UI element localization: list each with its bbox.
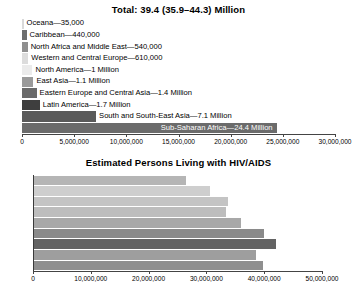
bottom-chart-x-tick-label: 20,000,000 — [132, 275, 165, 282]
top-chart-bar-row: Western and Central Europe—610,000 — [22, 53, 335, 65]
top-chart-bar — [22, 88, 37, 98]
bottom-chart-bar-row: 1998 — [33, 196, 322, 207]
top-chart-x-tick-label: 5,000,000 — [59, 138, 88, 145]
bottom-chart-bar-row: 1997 — [33, 186, 322, 197]
bottom-chart-bar — [33, 218, 241, 228]
bottom-chart-x-tick-label: 40,000,000 — [248, 275, 281, 282]
top-chart-x-tick-label: 25,000,000 — [266, 138, 299, 145]
bottom-chart-x-tick — [264, 271, 265, 274]
top-chart-bar-label: South and South-East Asia—7.1 Million — [99, 111, 232, 122]
top-chart-bar — [22, 65, 32, 75]
bottom-chart-bar — [33, 207, 226, 217]
bottom-chart-bar-row: 1996 — [33, 175, 322, 186]
top-chart-x-tick-label: 0 — [20, 138, 24, 145]
bottom-chart-bar — [33, 176, 186, 186]
top-chart-bar-row: Caribbean—440,000 — [22, 30, 335, 42]
bottom-chart-x-tick-label: 30,000,000 — [190, 275, 223, 282]
top-chart-x-tick — [126, 134, 127, 137]
top-chart-bar-label: North Africa and Middle East—540,000 — [31, 42, 162, 53]
top-chart-bar-row: East Asia—1.1 Million — [22, 76, 335, 88]
top-chart-x-tick-label: 30,000,000 — [318, 138, 351, 145]
top-chart-x-tick — [22, 134, 23, 137]
top-chart-bar-row: Sub-Saharan Africa—24.4 Million — [22, 122, 335, 134]
top-chart-bar — [22, 77, 33, 87]
bottom-chart-bar-row: 1999 — [33, 207, 322, 218]
top-chart-bar — [22, 111, 96, 121]
bottom-chart-bar-row: 2003 — [33, 250, 322, 261]
top-chart-bar-row: Oceana—35,000 — [22, 18, 335, 30]
bottom-chart-bar — [33, 239, 276, 249]
top-chart-x-tick — [283, 134, 284, 137]
bottom-chart-x-tick — [149, 271, 150, 274]
top-chart-bar-label: Eastern Europe and Central Asia—1.4 Mill… — [40, 88, 192, 99]
top-chart-bar — [22, 19, 24, 29]
bottom-chart-bar-row: 2001 — [33, 228, 322, 239]
top-chart-title: Total: 39.4 (35.9–44.3) Million — [0, 4, 357, 15]
hiv-by-year-bar-chart: Estimated Persons Living with HIV/AIDS 1… — [0, 155, 357, 287]
bottom-chart-bar — [33, 197, 228, 207]
bottom-chart-x-tick-label: 10,000,000 — [74, 275, 107, 282]
bottom-chart-x-tick — [91, 271, 92, 274]
top-chart-x-tick-label: 10,000,000 — [110, 138, 143, 145]
top-chart-x-tick — [179, 134, 180, 137]
top-chart-bar-label: Caribbean—440,000 — [30, 30, 100, 41]
bottom-chart-bar — [33, 261, 263, 271]
bottom-chart-x-tick-label: 0 — [31, 275, 35, 282]
bottom-chart-bar — [33, 250, 256, 260]
top-chart-bar-label: East Asia—1.1 Million — [36, 76, 109, 87]
bottom-chart-bar-row: 2000 — [33, 218, 322, 229]
top-chart-x-tick — [74, 134, 75, 137]
bottom-chart-bar-row: 2002 — [33, 239, 322, 250]
top-chart-bar-row: North Africa and Middle East—540,000 — [22, 41, 335, 53]
top-chart-bar — [22, 30, 27, 40]
top-chart-bar-label: Sub-Saharan Africa—24.4 Million — [161, 123, 273, 134]
bottom-chart-x-tick-label: 50,000,000 — [305, 275, 338, 282]
top-chart-x-tick — [231, 134, 232, 137]
top-chart-bar-label: Western and Central Europe—610,000 — [31, 53, 162, 64]
hiv-regions-bar-chart: Total: 39.4 (35.9–44.3) Million Oceana—3… — [0, 0, 357, 150]
top-chart-bar — [22, 53, 28, 63]
bottom-chart-y-axis-line — [33, 175, 34, 271]
top-chart-plot-area: Oceana—35,000Caribbean—440,000North Afri… — [22, 18, 335, 134]
bottom-chart-plot-area: 199619971998199920002001200220032004 — [33, 175, 322, 271]
bottom-chart-title: Estimated Persons Living with HIV/AIDS — [0, 157, 357, 168]
top-chart-x-tick — [335, 134, 336, 137]
top-chart-bar — [22, 100, 40, 110]
top-chart-x-tick-label: 20,000,000 — [214, 138, 247, 145]
bottom-chart-x-axis-line — [33, 271, 322, 272]
bottom-chart-x-tick — [206, 271, 207, 274]
top-chart-bar-row: Latin America—1.7 Million — [22, 99, 335, 111]
top-chart-bar-row: South and South-East Asia—7.1 Million — [22, 111, 335, 123]
bottom-chart-bar — [33, 229, 264, 239]
bottom-chart-x-tick — [322, 271, 323, 274]
top-chart-x-tick-label: 15,000,000 — [162, 138, 195, 145]
bottom-chart-bar — [33, 186, 210, 196]
top-chart-bar-label: Oceana—35,000 — [27, 18, 84, 29]
top-chart-bar — [22, 42, 28, 52]
bottom-chart-x-tick — [33, 271, 34, 274]
top-chart-bar-row: North America—1 Million — [22, 64, 335, 76]
top-chart-bar-row: Eastern Europe and Central Asia—1.4 Mill… — [22, 88, 335, 100]
top-chart-bar-label: Latin America—1.7 Million — [43, 100, 131, 111]
top-chart-bar-label: North America—1 Million — [35, 65, 119, 76]
bottom-chart-bar-row: 2004 — [33, 260, 322, 271]
